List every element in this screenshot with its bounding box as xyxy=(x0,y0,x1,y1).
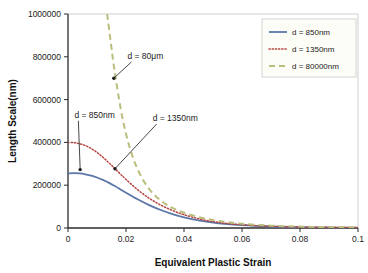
y-tick-label: 0 xyxy=(56,223,61,233)
annotation-label: d = 1350nm xyxy=(153,113,198,123)
x-tick-label: 0.1 xyxy=(352,234,364,244)
annotation-target-dot xyxy=(113,167,116,170)
y-tick-label: 1000000 xyxy=(28,9,61,19)
x-tick-label: 0.06 xyxy=(234,234,251,244)
chart-legend: d = 850nmd = 1350nmd = 80000nm xyxy=(262,19,356,77)
x-tick-label: 0 xyxy=(66,234,71,244)
chart-container: 00.020.040.060.080.1 0200000400000600000… xyxy=(0,0,368,273)
legend-entry-label: d = 80000nm xyxy=(292,62,339,71)
x-axis-title: Equivalent Plastic Strain xyxy=(155,257,272,268)
annotation-label: d = 850nm xyxy=(74,110,114,120)
y-tick-label: 400000 xyxy=(33,137,62,147)
y-tick-label: 200000 xyxy=(33,180,62,190)
annotation-target-dot xyxy=(78,168,81,171)
annotation-label: d = 80μm xyxy=(127,51,163,61)
annotation-target-dot xyxy=(112,77,115,80)
y-tick-label: 800000 xyxy=(33,52,62,62)
length-scale-vs-plastic-strain-chart: 00.020.040.060.080.1 0200000400000600000… xyxy=(0,0,368,273)
y-axis-title: Length Scale(nm) xyxy=(7,79,18,163)
x-tick-label: 0.02 xyxy=(118,234,135,244)
y-tick-label: 600000 xyxy=(33,95,62,105)
legend-entry-label: d = 1350nm xyxy=(292,45,335,54)
legend-entry-label: d = 850nm xyxy=(292,28,330,37)
x-tick-label: 0.04 xyxy=(176,234,193,244)
x-tick-label: 0.08 xyxy=(292,234,309,244)
